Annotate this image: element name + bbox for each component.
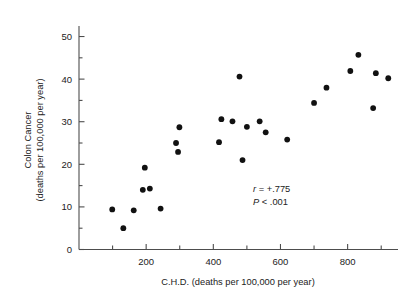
- y-axis-title-line1: Colon Cancer: [23, 112, 33, 169]
- statistics-annotation: r = +.775 P < .001: [253, 184, 290, 207]
- data-point: [230, 118, 236, 124]
- correlation-annotation: r = +.775: [253, 184, 290, 194]
- data-point: [347, 68, 353, 74]
- data-point: [140, 187, 146, 193]
- x-tick-label: 800: [340, 256, 356, 267]
- axes-layer: [79, 26, 398, 250]
- plot-canvas: 01020304050200400600800 C.H.D. (deaths p…: [0, 0, 413, 300]
- data-point: [240, 157, 246, 163]
- data-point: [131, 207, 137, 213]
- x-tick-label: 200: [138, 256, 154, 267]
- data-point: [158, 206, 164, 212]
- y-tick-label: 40: [61, 74, 72, 85]
- data-point: [385, 75, 391, 81]
- data-point: [173, 140, 179, 146]
- ticks-layer: [79, 37, 381, 250]
- data-point: [109, 207, 115, 213]
- p-value: < .001: [259, 197, 288, 207]
- data-point: [177, 124, 183, 130]
- data-point: [216, 139, 222, 145]
- x-tick-label: 400: [205, 256, 221, 267]
- data-points-layer: [109, 52, 391, 231]
- data-point: [370, 105, 376, 111]
- data-point: [237, 74, 243, 80]
- data-point: [311, 100, 317, 106]
- x-tick-label: 600: [273, 256, 289, 267]
- y-tick-label: 30: [61, 116, 72, 127]
- pvalue-annotation: P < .001: [253, 197, 288, 207]
- y-tick-label: 0: [67, 244, 72, 255]
- data-point: [218, 116, 224, 122]
- x-axis-title: C.H.D. (deaths per 100,000 per year): [161, 277, 314, 287]
- data-point: [257, 118, 263, 124]
- tick-labels-layer: 01020304050200400600800: [61, 31, 355, 267]
- data-point: [142, 165, 148, 171]
- data-point: [355, 52, 361, 58]
- r-value: = +.775: [256, 184, 290, 194]
- scatter-plot-figure: 01020304050200400600800 C.H.D. (deaths p…: [0, 0, 413, 300]
- y-axis-title-line2: (deaths per 100,000 per year): [35, 78, 45, 201]
- data-point: [147, 186, 153, 192]
- data-point: [244, 124, 250, 130]
- data-point: [324, 85, 330, 91]
- data-point: [120, 225, 126, 231]
- y-axis-title: Colon Cancer (deaths per 100,000 per yea…: [23, 78, 45, 201]
- y-tick-label: 10: [61, 201, 72, 212]
- y-tick-label: 50: [61, 31, 72, 42]
- data-point: [284, 137, 290, 143]
- y-tick-label: 20: [61, 159, 72, 170]
- data-point: [373, 70, 379, 76]
- data-point: [263, 129, 269, 135]
- data-point: [175, 149, 181, 155]
